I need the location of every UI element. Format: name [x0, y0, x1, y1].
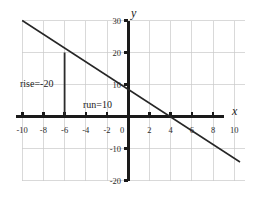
y-tick-label: 30 [113, 16, 122, 26]
y-tick-label: -20 [110, 176, 121, 186]
x-tick-label: 4 [168, 125, 173, 135]
y-tick-label: 20 [113, 48, 122, 58]
y-tick-label: 10 [113, 80, 122, 90]
run-annotation-label: run=10 [83, 99, 112, 110]
grid-lines-horizontal [22, 21, 245, 181]
x-tick-label: -4 [82, 125, 90, 135]
x-tick-label: 10 [230, 125, 239, 135]
x-tick-label: -8 [40, 125, 47, 135]
x-tick-label: 6 [190, 125, 194, 135]
x-tick-label-zero: 0 [120, 125, 124, 135]
rise-annotation-label: rise=-20 [20, 78, 53, 89]
x-tick-label: -2 [103, 125, 110, 135]
x-axis-label: x [231, 104, 238, 118]
x-tick-label: -6 [61, 125, 68, 135]
x-tick-label: -10 [17, 125, 28, 135]
y-axis-label: y [130, 6, 137, 20]
y-tick-label: -10 [110, 144, 121, 154]
graph-canvas: -10 -8 -6 -4 -2 0 2 4 6 8 10 30 20 10 -1… [0, 0, 260, 202]
x-tick-label: 2 [147, 125, 151, 135]
x-tick-label: 8 [211, 125, 215, 135]
coordinate-graph: -10 -8 -6 -4 -2 0 2 4 6 8 10 30 20 10 -1… [0, 0, 260, 202]
plotted-line [22, 21, 240, 163]
